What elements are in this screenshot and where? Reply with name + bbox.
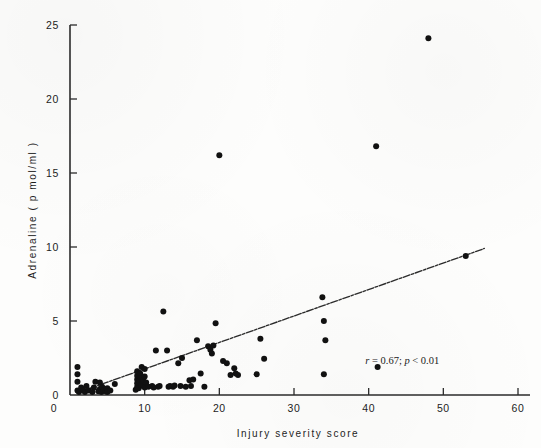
data-point [175,360,181,366]
y-axis-tick-label: 15 [46,167,59,179]
data-point [142,366,148,372]
data-point [74,371,80,377]
data-point [112,381,118,387]
data-point [172,382,178,388]
y-axis-tick-label: 10 [46,241,59,253]
y-axis-tick-label: 25 [46,19,59,31]
data-point [194,337,200,343]
data-point [74,364,80,370]
axes-group: 05101520250102030405060 [46,19,530,414]
data-point [178,383,184,389]
data-point [321,318,327,324]
data-point [210,342,216,348]
data-point [463,253,469,259]
data-point [373,143,379,149]
datapoints-group [74,35,468,395]
data-point [228,372,234,378]
data-point [179,355,185,361]
scatter-plot-figure: 05101520250102030405060 Injury severity … [0,0,541,448]
data-point [224,360,230,366]
data-point [319,294,325,300]
y-axis-tick-label: 5 [53,315,59,327]
x-axis-tick-label: 20 [213,402,226,414]
data-point [198,371,204,377]
x-axis-tick-label: 60 [512,402,525,414]
data-point [254,371,260,377]
data-point [322,337,328,343]
data-point [209,351,215,357]
x-axis-title: Injury severity score [237,428,360,439]
y-axis-title: Adrenaline ( p mol/ml ) [27,141,38,278]
x-axis-tick-label: 50 [437,402,450,414]
data-point [153,348,159,354]
data-point [190,376,196,382]
statistics-annotation: r = 0.67; p < 0.01 [365,355,439,366]
data-point [160,308,166,314]
x-axis-tick-label: 0 [51,402,57,414]
x-axis-tick-label: 40 [362,402,375,414]
plot-canvas: 05101520250102030405060 Injury severity … [0,0,541,448]
data-point [257,336,263,342]
y-axis-tick-label: 0 [53,389,59,401]
x-axis-tick-label: 30 [288,402,301,414]
data-point [231,365,237,371]
data-point [216,152,222,158]
data-point [107,388,113,394]
y-axis-tick-label: 20 [46,93,59,105]
data-point [201,384,207,390]
data-point [188,383,194,389]
data-point [157,383,163,389]
data-point [213,320,219,326]
data-point [425,35,431,41]
data-point [164,348,170,354]
data-point [321,371,327,377]
x-axis-tick-label: 10 [138,402,151,414]
data-point [261,356,267,362]
data-point [183,384,189,390]
data-point [142,374,148,380]
data-point [74,379,80,385]
data-point [235,372,241,378]
